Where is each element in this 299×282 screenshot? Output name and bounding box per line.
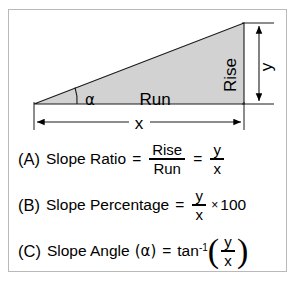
paren-group-c: ( y x ): [208, 234, 249, 268]
fraction-numerator-y: y: [211, 142, 225, 158]
run-label: Run: [139, 90, 170, 109]
equals-sign-b: =: [175, 196, 184, 214]
formula-tag-a: (A): [18, 150, 40, 169]
figure-root: α Run Rise y x: [0, 0, 299, 282]
formula-row-slope-angle: (C) Slope Angle (α) = tan -1 ( y x ): [9, 229, 288, 273]
fraction-denominator-x: x: [221, 252, 235, 268]
equals-sign-a2: =: [193, 150, 202, 168]
y-dimension-label: y: [257, 62, 276, 71]
equals-sign-a1: =: [132, 150, 141, 168]
angle-label: α: [85, 91, 95, 109]
formula-list: (A) Slope Ratio = Rise Run = y x (B) Slo: [9, 135, 288, 273]
fraction-y-over-x-a: y x: [210, 142, 224, 176]
exponent-minus-one: -1: [199, 242, 208, 253]
fraction-denominator-x: x: [211, 160, 225, 176]
rise-label: Rise: [221, 58, 240, 92]
x-dimension-label: x: [135, 114, 144, 133]
fraction-denominator-run: Run: [150, 160, 184, 176]
multiplier-value-b: 100: [220, 196, 246, 214]
paren-open-c: (: [208, 237, 219, 264]
formula-text-c: Slope Angle: [47, 242, 130, 260]
angle-variable-c: (α): [135, 242, 157, 260]
fraction-numerator-y: y: [193, 188, 207, 204]
formula-tag-c: (C): [18, 242, 41, 261]
fraction-y-over-x-c: y x: [221, 234, 235, 268]
equals-sign-c: =: [162, 242, 171, 260]
function-name-tan: tan: [177, 242, 199, 260]
formula-tag-b: (B): [18, 196, 40, 215]
triangle-svg: α Run Rise y x: [9, 10, 288, 135]
figure-frame: α Run Rise y x: [8, 9, 287, 272]
formula-text-b: Slope Percentage: [46, 196, 169, 214]
multiply-sign-b: ×: [211, 198, 218, 212]
paren-close-c: ): [237, 237, 248, 264]
slope-triangle-diagram: α Run Rise y x: [9, 10, 288, 135]
fraction-numerator-y: y: [221, 234, 235, 250]
formula-row-slope-percentage: (B) Slope Percentage = y x × 100: [9, 183, 288, 227]
fraction-denominator-x: x: [193, 206, 207, 222]
formula-text-a: Slope Ratio: [46, 150, 126, 168]
fraction-numerator-rise: Rise: [149, 142, 185, 158]
fraction-rise-over-run: Rise Run: [149, 142, 185, 176]
formula-row-slope-ratio: (A) Slope Ratio = Rise Run = y x: [9, 137, 288, 181]
fraction-y-over-x-b: y x: [192, 188, 206, 222]
